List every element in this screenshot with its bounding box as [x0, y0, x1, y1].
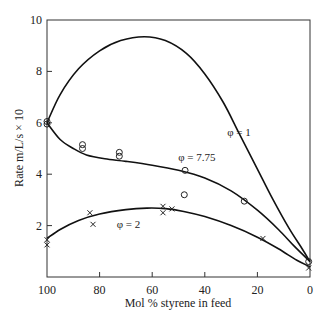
circle-marker	[80, 146, 86, 152]
curve-label: φ = 2	[117, 218, 141, 230]
plot-area: 100806040200 246810 φ = 1φ = 7.75φ = 2 M…	[0, 0, 328, 321]
y-axis-label: Rate m/L/s × 10	[12, 109, 26, 187]
curve-label: φ = 7.75	[178, 151, 216, 163]
x-axis-ticks: 100806040200	[38, 272, 313, 297]
data-markers	[44, 119, 312, 271]
curve-label: φ = 1	[227, 126, 251, 138]
curve-line	[47, 37, 310, 262]
y-tick-label: 6	[36, 116, 42, 130]
x-tick-label: 80	[94, 283, 106, 297]
y-axis-ticks: 246810	[30, 13, 52, 233]
plot-border	[47, 20, 310, 277]
circle-marker	[116, 153, 122, 159]
curve-labels: φ = 1φ = 7.75φ = 2	[117, 126, 251, 231]
y-tick-label: 8	[36, 64, 42, 78]
x-tick-label: 20	[251, 283, 263, 297]
y-tick-label: 10	[30, 13, 42, 27]
chart: 100806040200 246810 φ = 1φ = 7.75φ = 2 M…	[0, 0, 328, 321]
y-tick-label: 2	[36, 219, 42, 233]
curve-line	[47, 123, 310, 262]
x-axis-label: Mol % styrene in feed	[125, 296, 232, 310]
cross-marker	[160, 210, 165, 215]
circle-marker	[181, 192, 187, 198]
x-tick-label: 40	[199, 283, 211, 297]
cross-marker	[87, 210, 92, 215]
curve-line	[47, 208, 310, 267]
plot-frame	[47, 20, 310, 277]
x-tick-label: 60	[146, 283, 158, 297]
x-tick-label: 0	[307, 283, 313, 297]
x-tick-label: 100	[38, 283, 56, 297]
y-tick-label: 4	[36, 167, 42, 181]
cross-marker	[91, 222, 96, 227]
